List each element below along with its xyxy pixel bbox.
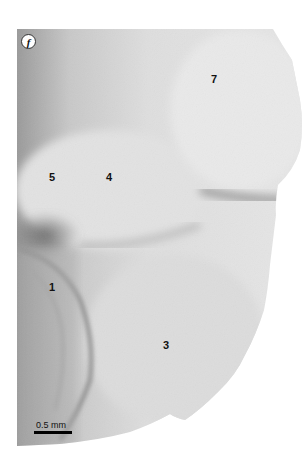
scale-bar-label: 0.5 mm — [36, 420, 66, 430]
region-label-7: 7 — [211, 74, 217, 85]
region-label-4: 4 — [106, 172, 112, 183]
panel-label-badge: f — [21, 34, 36, 49]
scale-bar — [34, 431, 72, 434]
region-label-5: 5 — [49, 172, 55, 183]
region-label-1: 1 — [49, 282, 55, 293]
region-label-3: 3 — [163, 340, 169, 351]
micrograph-figure: f 1 3 4 5 7 0.5 mm — [0, 0, 308, 459]
specimen-image — [0, 0, 308, 459]
